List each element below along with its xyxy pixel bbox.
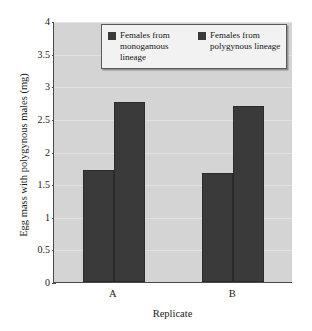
chart-legend: Females from monogamous lineage Females … bbox=[101, 24, 287, 69]
y-tick-label: 3 bbox=[26, 82, 50, 92]
gridline bbox=[54, 22, 292, 23]
y-tick-label: 4 bbox=[26, 17, 50, 27]
y-tick-label: 1.5 bbox=[26, 180, 50, 190]
bar bbox=[114, 102, 145, 282]
y-tick-label: 2.5 bbox=[26, 115, 50, 125]
x-axis-ticks: AB bbox=[53, 288, 292, 302]
x-tick-label: A bbox=[93, 288, 133, 299]
y-tick-label: 3.5 bbox=[26, 50, 50, 60]
legend-label-polygynous: Females from polygynous lineage bbox=[210, 30, 282, 52]
y-tick-label: 1 bbox=[26, 213, 50, 223]
x-axis-title: Replicate bbox=[53, 308, 292, 319]
bar bbox=[202, 173, 233, 282]
legend-label-monogamous: Females from monogamous lineage bbox=[120, 30, 192, 63]
gridline bbox=[54, 87, 292, 88]
y-axis-ticks: 00.511.522.533.54 bbox=[26, 22, 50, 283]
bar-chart-figure: Egg mass with polygynous males (mg) 00.5… bbox=[0, 0, 312, 331]
bar bbox=[83, 170, 114, 282]
legend-swatch-icon bbox=[198, 32, 206, 40]
bar bbox=[233, 106, 264, 282]
legend-swatch-icon bbox=[108, 32, 116, 40]
legend-entry-monogamous: Females from monogamous lineage bbox=[108, 30, 192, 63]
legend-entry-polygynous: Females from polygynous lineage bbox=[198, 30, 282, 63]
y-tick-label: 0.5 bbox=[26, 245, 50, 255]
y-tick-mark bbox=[52, 283, 56, 284]
x-tick-label: B bbox=[212, 288, 252, 299]
y-tick-label: 0 bbox=[26, 278, 50, 288]
y-tick-label: 2 bbox=[26, 148, 50, 158]
